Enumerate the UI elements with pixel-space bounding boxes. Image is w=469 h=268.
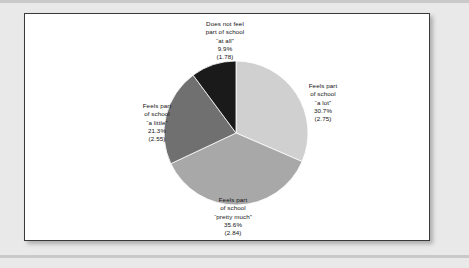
pie-label-a-lot-line1: Feels part <box>283 82 363 90</box>
pie-label-at-all-line2: part of school <box>177 28 273 36</box>
pie-label-a-little-line2: of school <box>117 110 197 118</box>
pie-label-a-lot-mean: (2.75) <box>283 115 363 123</box>
pie-chart: Does not feel part of school “at all” 9.… <box>25 14 429 240</box>
pie-label-a-little-mean: (2.55) <box>117 135 197 143</box>
top-divider <box>0 0 469 3</box>
chart-card: Does not feel part of school “at all” 9.… <box>24 13 430 241</box>
bottom-divider <box>0 255 469 258</box>
pie-label-pretty-much-line2: of school <box>185 204 281 212</box>
pie-label-a-lot-quote: “a lot” <box>283 99 363 107</box>
pie-label-a-lot-line2: of school <box>283 90 363 98</box>
pie-label-pretty-much: Feels part of school “pretty much” 35.6%… <box>185 196 281 237</box>
pie-label-at-all-line1: Does not feel <box>177 20 273 28</box>
pie-label-a-little: Feels part of school “a little” 21.3% (2… <box>117 102 197 143</box>
pie-label-a-little-line1: Feels part <box>117 102 197 110</box>
pie-label-at-all-quote: “at all” <box>177 37 273 45</box>
pie-label-at-all-percent: 9.9% <box>177 45 273 53</box>
pie-label-a-lot: Feels part of school “a lot” 30.7% (2.75… <box>283 82 363 123</box>
pie-label-pretty-much-line1: Feels part <box>185 196 281 204</box>
pie-label-a-lot-percent: 30.7% <box>283 107 363 115</box>
pie-label-a-little-percent: 21.3% <box>117 127 197 135</box>
pie-label-at-all: Does not feel part of school “at all” 9.… <box>177 20 273 61</box>
pie-label-pretty-much-mean: (2.84) <box>185 229 281 237</box>
pie-label-a-little-quote: “a little” <box>117 119 197 127</box>
pie-label-pretty-much-percent: 35.6% <box>185 221 281 229</box>
pie-label-at-all-mean: (1.78) <box>177 53 273 61</box>
pie-label-pretty-much-quote: “pretty much” <box>185 213 281 221</box>
